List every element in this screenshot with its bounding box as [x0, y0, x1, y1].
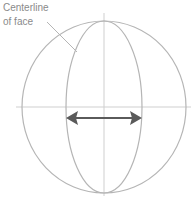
leader-line	[47, 22, 77, 52]
head-construction-diagram	[0, 0, 191, 201]
